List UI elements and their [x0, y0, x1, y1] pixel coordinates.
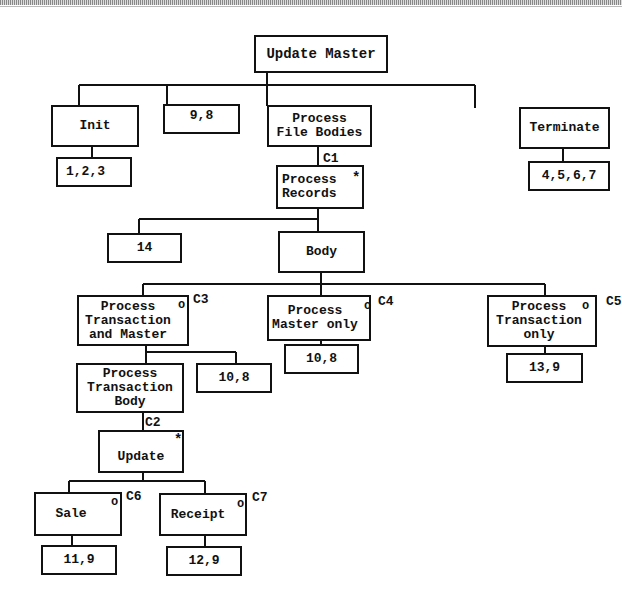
condition-c4: C4 [378, 295, 394, 308]
selection-marker-icon: o [582, 300, 589, 312]
node-sale: Sale [34, 492, 122, 536]
iteration-marker-icon: * [174, 434, 182, 446]
node-ops-13-9: 13,9 [506, 353, 583, 383]
node-process-transaction-and-master: Process Transaction and Master [77, 295, 189, 346]
node-receipt: Receipt [159, 493, 247, 536]
node-init: Init [51, 105, 139, 147]
node-ops-11-9: 11,9 [41, 545, 117, 575]
condition-c2: C2 [145, 416, 161, 429]
node-ops-10-8-master: 10,8 [284, 344, 359, 374]
condition-c6: C6 [126, 490, 142, 503]
node-body: Body [278, 231, 365, 273]
selection-marker-icon: o [178, 299, 185, 311]
node-process-transaction-only: Process Transaction only [487, 295, 597, 347]
node-process-file-bodies: Process File Bodies [267, 105, 372, 147]
selection-marker-icon: o [237, 498, 244, 510]
node-ops-4-5-6-7: 4,5,6,7 [528, 161, 610, 191]
condition-c5: C5 [606, 295, 622, 308]
node-process-records: Process Records [276, 165, 364, 209]
node-process-master-only: Process Master only [267, 295, 371, 341]
selection-marker-icon: o [111, 496, 118, 508]
selection-marker-icon: o [364, 300, 371, 312]
node-update: Update [98, 430, 184, 473]
node-ops-12-9: 12,9 [166, 546, 242, 576]
condition-c7: C7 [252, 491, 268, 504]
condition-c3: C3 [193, 293, 209, 306]
condition-c1: C1 [323, 152, 339, 165]
node-ops-10-8-transaction: 10,8 [196, 363, 272, 393]
node-terminate: Terminate [519, 107, 610, 149]
node-process-transaction-body: Process Transaction Body [76, 363, 184, 413]
node-ops-9-8-top: 9,8 [163, 104, 240, 134]
node-update-master: Update Master [254, 35, 388, 73]
node-ops-1-2-3: 1,2,3 [56, 157, 132, 187]
iteration-marker-icon: * [352, 172, 360, 184]
node-ops-14: 14 [107, 233, 182, 263]
